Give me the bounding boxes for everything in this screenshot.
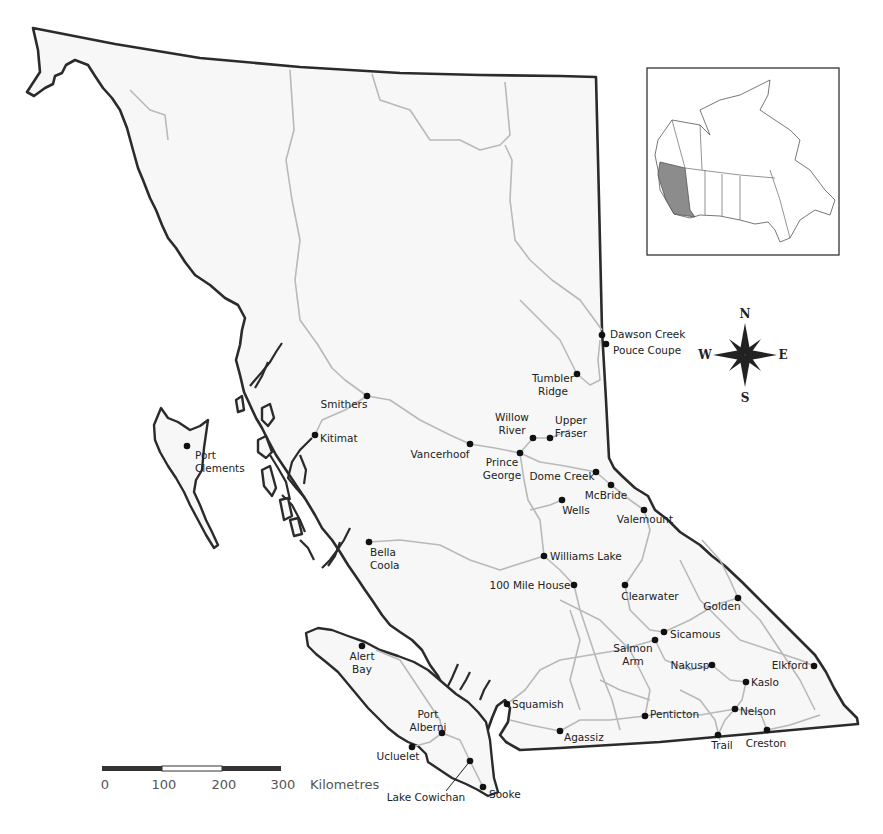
city-dawson-creek: Dawson Creek [599, 328, 687, 340]
city-dot [366, 539, 373, 546]
city-dot [574, 371, 581, 378]
city-label: UpperFraser [555, 414, 588, 439]
scale-segment-1 [102, 766, 162, 771]
city-dot [811, 663, 818, 670]
city-label: Dome Creek [530, 470, 596, 482]
city-label: Creston [746, 737, 787, 749]
city-label: Vancerhoof [410, 448, 469, 460]
city-dot [732, 706, 739, 713]
city-label: Clearwater [621, 590, 679, 602]
city-100-mile-house: 100 Mile House [490, 579, 578, 591]
city-label: Penticton [650, 708, 699, 720]
city-pouce-coupe: Pouce Coupe [603, 341, 681, 356]
bc-map: Dawson CreekPouce CoupeTumblerRidgeSmith… [0, 0, 883, 834]
city-label: Pouce Coupe [613, 344, 681, 356]
haida-gwaii [154, 408, 218, 548]
city-label: McBride [585, 489, 627, 501]
scale-tick-100: 100 [152, 777, 177, 792]
city-dot [571, 582, 578, 589]
scale-tick-300: 300 [271, 777, 296, 792]
city-label: Nelson [740, 705, 776, 717]
city-dot [603, 341, 610, 348]
city-penticton: Penticton [642, 708, 699, 720]
city-dot [599, 332, 606, 339]
city-dome-creek: Dome Creek [530, 469, 600, 482]
scale-tick-0: 0 [101, 777, 109, 792]
city-dot [709, 662, 716, 669]
scale-tick-200: 200 [212, 777, 237, 792]
city-squamish: Squamish [504, 698, 564, 710]
compass-north: N [740, 307, 751, 321]
city-label: Wells [562, 504, 590, 516]
city-label: Sicamous [670, 628, 721, 640]
city-dot [504, 701, 511, 708]
city-label: Nakusp [671, 659, 710, 671]
city-dot [557, 728, 564, 735]
city-nakusp: Nakusp [671, 659, 716, 671]
city-dot [547, 435, 554, 442]
city-label: Ucluelet [377, 750, 420, 762]
city-label: Kitimat [320, 432, 358, 444]
city-dot [467, 441, 474, 448]
scale-segment-3 [222, 766, 281, 771]
compass-east: E [778, 348, 787, 362]
city-label: BellaCoola [370, 546, 400, 571]
city-dot [715, 732, 722, 739]
city-dot [541, 553, 548, 560]
city-label: 100 Mile House [490, 579, 571, 591]
city-dot [359, 643, 366, 650]
city-dot [530, 435, 537, 442]
city-label: Valemount [617, 513, 673, 525]
city-label: Agassiz [564, 731, 604, 743]
compass-south: S [741, 391, 750, 405]
city-dot [184, 443, 191, 450]
compass-rose: N S W E [697, 307, 787, 405]
city-sicamous: Sicamous [661, 628, 721, 640]
city-label: Dawson Creek [610, 328, 686, 340]
city-label: Elkford [772, 659, 809, 671]
city-ucluelet: Ucluelet [377, 744, 420, 762]
city-dot [743, 679, 750, 686]
city-label: PrinceGeorge [483, 456, 521, 481]
city-dot [559, 497, 566, 504]
city-dot [652, 637, 659, 644]
city-label: Trail [710, 739, 732, 751]
city-label: Lake Cowichan [387, 791, 466, 803]
scale-bar: 0 100 200 300 Kilometres [101, 766, 380, 792]
city-label: Smithers [321, 398, 368, 410]
city-dot [467, 758, 474, 765]
city-label: AlertBay [350, 650, 375, 675]
city-williams-lake: Williams Lake [541, 550, 622, 562]
city-label: Golden [703, 600, 740, 612]
city-label: Williams Lake [550, 550, 622, 562]
scale-unit: Kilometres [310, 777, 380, 792]
city-label: Sooke [489, 788, 521, 800]
city-dot [642, 713, 649, 720]
city-dot [480, 784, 487, 791]
city-dot [661, 629, 668, 636]
city-dot [764, 727, 771, 734]
city-dot [312, 432, 319, 439]
compass-west: W [697, 348, 712, 362]
scale-segment-2 [162, 766, 222, 771]
city-label: Squamish [512, 698, 564, 710]
city-label: PortClements [195, 449, 245, 474]
city-dot [608, 482, 615, 489]
inset-map-canada [647, 68, 839, 255]
city-label: Kaslo [751, 676, 779, 688]
city-dot [622, 582, 629, 589]
city-label: WillowRiver [495, 411, 529, 436]
